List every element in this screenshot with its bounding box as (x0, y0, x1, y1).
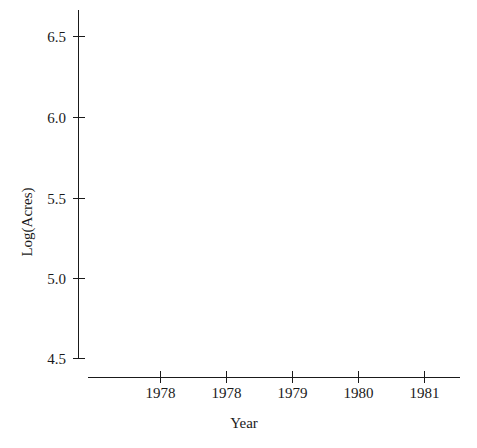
y-tick-label: 4.5 (47, 351, 66, 367)
y-axis: 6.5 6.0 5.5 5.0 4.5 Log(Acres) (19, 10, 85, 367)
x-tick-label: 1981 (410, 385, 440, 401)
x-tick-label: 1980 (344, 385, 374, 401)
y-axis-title: Log(Acres) (19, 187, 36, 256)
x-tick-label: 1978 (212, 385, 242, 401)
plot-area (78, 10, 460, 378)
x-tick-label: 1979 (278, 385, 308, 401)
chart-figure: 6.5 6.0 5.5 5.0 4.5 Log(Acres) (0, 0, 477, 448)
x-axis-title: Year (230, 415, 258, 431)
x-axis: 1978 1978 1979 1980 1981 Year (88, 371, 460, 431)
y-tick-label: 5.5 (47, 191, 66, 207)
y-tick-label: 6.5 (47, 29, 66, 45)
chart-canvas: 6.5 6.0 5.5 5.0 4.5 Log(Acres) (0, 0, 477, 448)
y-tick-label: 6.0 (47, 110, 66, 126)
x-tick-label: 1978 (146, 385, 176, 401)
y-tick-label: 5.0 (47, 271, 66, 287)
